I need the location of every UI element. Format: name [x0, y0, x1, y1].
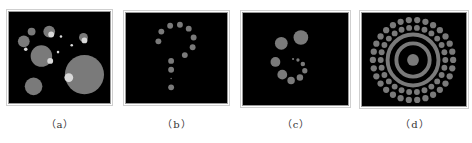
panel-a-caption: （a） — [30, 116, 90, 131]
panel-d-caption: （d） — [385, 116, 445, 131]
panel-c-caption: （c） — [266, 116, 326, 131]
panel-b-image — [125, 12, 228, 104]
question-mark-dots-graphic — [126, 13, 227, 103]
random-circles-graphic — [9, 12, 110, 103]
panel-d-image — [361, 12, 467, 107]
spiral-dots-graphic — [243, 13, 348, 105]
panel-b-caption: （b） — [147, 116, 207, 131]
concentric-rings-graphic — [362, 13, 466, 106]
panel-c-image — [242, 12, 349, 106]
panel-a-image — [8, 11, 111, 104]
